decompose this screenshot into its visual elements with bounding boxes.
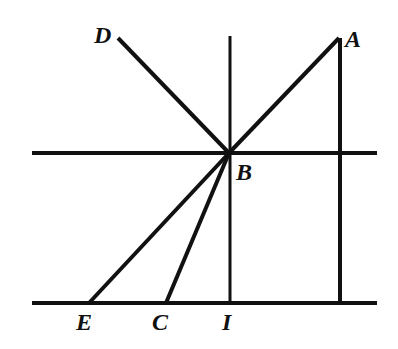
ray-bc — [166, 153, 229, 303]
diagram-lines — [0, 0, 398, 349]
ray-be — [89, 153, 229, 303]
label-i: I — [222, 310, 231, 334]
ray-ab — [229, 38, 339, 153]
ray-bd — [118, 38, 229, 153]
label-d: D — [94, 23, 111, 47]
label-a: A — [345, 27, 361, 51]
geometry-diagram: D A B E C I — [0, 0, 398, 349]
label-b: B — [236, 160, 252, 184]
label-e: E — [76, 310, 92, 334]
label-c: C — [152, 310, 168, 334]
